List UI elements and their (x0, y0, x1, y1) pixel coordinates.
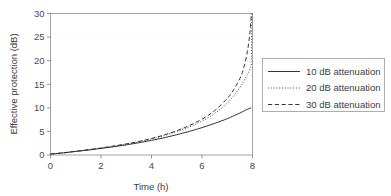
chart-figure: 051015202530 02468 Time (h) Effective pr… (0, 0, 391, 196)
x-tick-label-6: 6 (199, 160, 204, 171)
legend-label-2: 20 dB attenuation (306, 82, 380, 93)
y-tick-label-20: 20 (34, 55, 45, 66)
y-tick-label-10: 10 (34, 102, 45, 113)
y-tick-label-5: 5 (39, 126, 44, 137)
y-tick-label-15: 15 (34, 79, 45, 90)
x-tick-label-0: 0 (48, 160, 53, 171)
legend-label-3: 30 dB attenuation (306, 99, 380, 110)
x-tick-label-8: 8 (250, 160, 255, 171)
x-tick-label-2: 2 (98, 160, 103, 171)
y-tick-label-30: 30 (34, 8, 45, 19)
x-axis-title: Time (h) (133, 181, 168, 192)
y-axis-title: Effective protection (dB) (8, 33, 19, 134)
legend: 10 dB attenuation20 dB attenuation30 dB … (263, 59, 385, 112)
x-tick-label-4: 4 (149, 160, 154, 171)
y-tick-label-25: 25 (34, 31, 45, 42)
y-tick-label-0: 0 (39, 149, 44, 160)
chart-svg: 051015202530 02468 Time (h) Effective pr… (0, 0, 391, 196)
legend-label-1: 10 dB attenuation (306, 66, 380, 77)
